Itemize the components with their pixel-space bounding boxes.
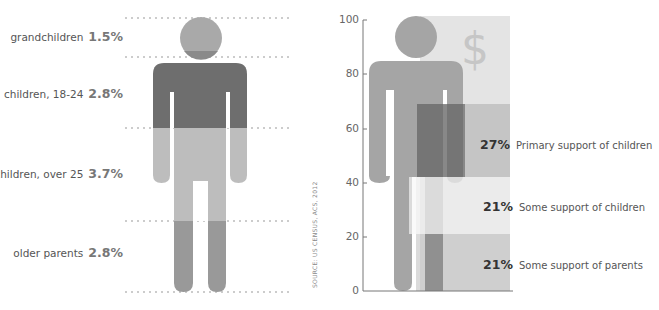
dollar-icon: $ bbox=[461, 23, 489, 74]
y-tick-80: 80 bbox=[329, 67, 359, 79]
segment-label-primary-support-children: 27%Primary support of children bbox=[480, 137, 652, 152]
segment-label-some-support-children: 21%Some support of children bbox=[483, 199, 645, 214]
segment-value: 21% bbox=[483, 257, 513, 272]
y-tick-60: 60 bbox=[329, 122, 359, 134]
segment-label-some-support-parents: 21%Some support of parents bbox=[483, 257, 643, 272]
y-tick-40: 40 bbox=[329, 176, 359, 188]
y-tick-20: 20 bbox=[329, 230, 359, 242]
segment-name: Primary support of children bbox=[516, 140, 652, 151]
y-tick-100: 100 bbox=[329, 13, 359, 25]
segment-value: 27% bbox=[480, 137, 510, 152]
segment-name: Some support of children bbox=[519, 202, 645, 213]
y-tick-0: 0 bbox=[329, 284, 359, 296]
segment-name: Some support of parents bbox=[519, 260, 643, 271]
segment-value: 21% bbox=[483, 199, 513, 214]
